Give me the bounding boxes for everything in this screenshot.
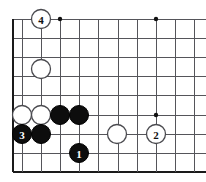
white-stone-move-4: 4: [32, 10, 51, 29]
black-stone-move-1: 1: [70, 144, 89, 163]
board-grid: [13, 19, 206, 172]
black-stone-move-3-label: 3: [19, 129, 25, 141]
white-stone-move-4-label: 4: [38, 14, 44, 26]
white-stone-move-2: 2: [147, 125, 166, 144]
board-star-points: [58, 17, 158, 117]
board-stones: 4321: [13, 10, 166, 163]
star-point-lower-right: [154, 113, 158, 117]
white-stone-lower-center: [108, 125, 127, 144]
white-stone-left-b: [32, 106, 51, 125]
go-board-diagram: 4321: [0, 0, 206, 182]
go-board-canvas: 4321: [0, 0, 206, 182]
white-stone-upper-left: [32, 60, 51, 79]
white-stone-left-a: [13, 106, 32, 125]
black-stone-move-3: 3: [13, 125, 32, 144]
black-stone-center-a: [51, 106, 70, 125]
white-stone-move-2-label: 2: [153, 129, 159, 141]
black-stone-lower-left: [32, 125, 51, 144]
star-point-upper-left: [58, 17, 62, 21]
black-stone-center-b: [70, 106, 89, 125]
black-stone-move-1-label: 1: [76, 148, 82, 160]
star-point-upper-right: [154, 17, 158, 21]
